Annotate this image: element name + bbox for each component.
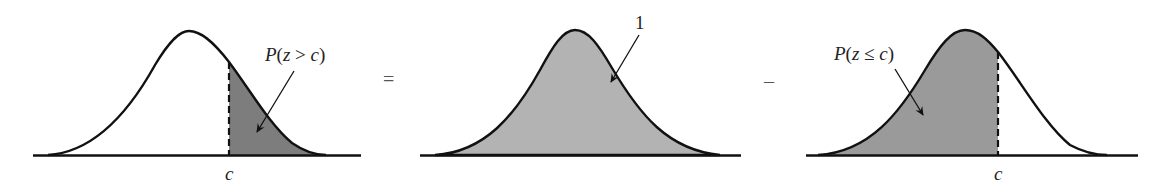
label-arrow [611,35,639,82]
panel-total-area: 1 [420,12,741,156]
axis-label-c: c [225,163,234,184]
shaded-area-total [435,30,720,155]
panel-right-tail: P(z > c) c [33,31,361,184]
axis-label-c: c [994,163,1003,184]
probability-label: P(z > c) [264,44,325,66]
label-arrow [257,71,294,132]
equals-operator: = [383,68,394,90]
normal-curve-identity-diagram: P(z > c) c = 1 – P(z ≤ c) c [0,0,1157,184]
probability-label: P(z ≤ c) [833,43,894,65]
minus-operator: – [763,70,775,92]
panel-left-cumulative: P(z ≤ c) c [806,30,1138,184]
total-area-label: 1 [635,12,645,33]
